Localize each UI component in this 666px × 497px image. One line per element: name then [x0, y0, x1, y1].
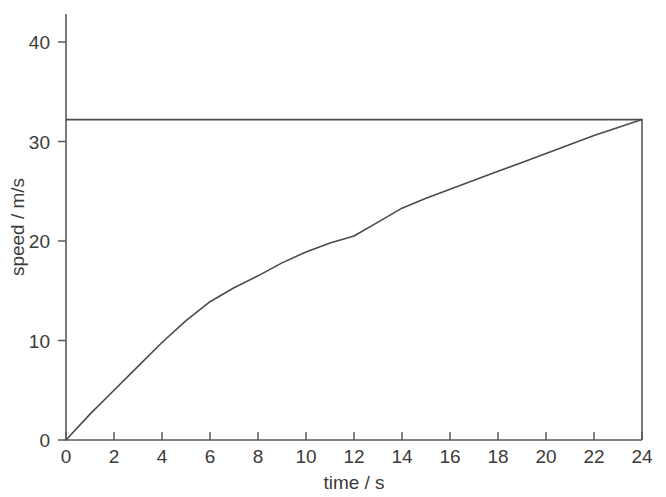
y-tick-label: 20 [29, 231, 50, 252]
x-tick-label: 10 [295, 446, 316, 467]
x-tick-label: 18 [487, 446, 508, 467]
x-tick-label: 22 [583, 446, 604, 467]
y-tick-label: 10 [29, 331, 50, 352]
y-axis-title: speed / m/s [7, 178, 28, 276]
x-axis-title: time / s [323, 472, 384, 493]
x-tick-label: 6 [205, 446, 216, 467]
x-tick-label: 14 [391, 446, 413, 467]
chart-canvas: 40 30 20 10 0 0 2 4 6 8 10 12 14 16 18 2… [0, 0, 666, 497]
x-tick-labels: 0 2 4 6 8 10 12 14 16 18 20 22 24 [61, 446, 653, 467]
y-tick-labels: 40 30 20 10 0 [29, 32, 50, 451]
x-tick-label: 0 [61, 446, 72, 467]
speed-curve [66, 120, 642, 440]
x-tick-marks [66, 432, 642, 440]
y-tick-label: 40 [29, 32, 50, 53]
x-tick-label: 4 [157, 446, 168, 467]
y-tick-label: 30 [29, 132, 50, 153]
y-tick-label: 0 [39, 430, 50, 451]
speed-time-chart: 40 30 20 10 0 0 2 4 6 8 10 12 14 16 18 2… [0, 0, 666, 497]
x-tick-label: 2 [109, 446, 120, 467]
x-tick-label: 8 [253, 446, 264, 467]
x-tick-label: 12 [343, 446, 364, 467]
x-tick-label: 24 [631, 446, 653, 467]
x-tick-label: 16 [439, 446, 460, 467]
y-tick-marks [58, 42, 66, 440]
x-tick-label: 20 [535, 446, 556, 467]
